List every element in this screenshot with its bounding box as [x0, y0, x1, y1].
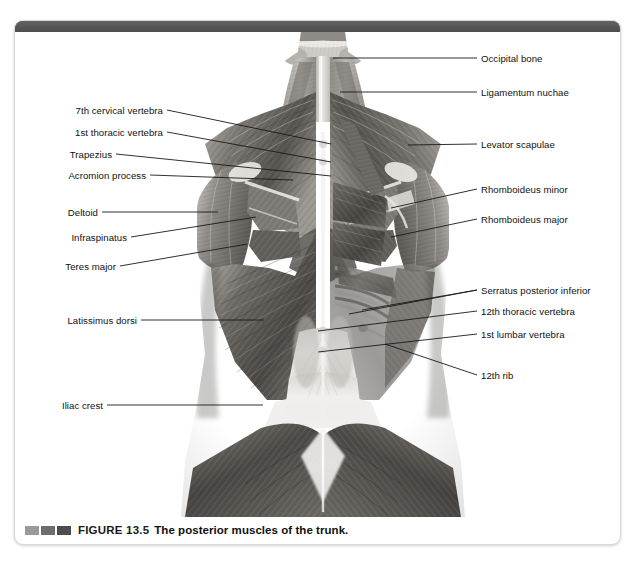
posterior-trunk-muscles-illustration: [149, 32, 479, 517]
callout-label-serratus-posterior-inferior[interactable]: Serratus posterior inferior: [481, 285, 591, 296]
callout-label-occipital-bone[interactable]: Occipital bone: [481, 53, 543, 64]
callout-label-infraspinatus[interactable]: Infraspinatus: [71, 232, 127, 243]
caption-decoration-marks: [25, 526, 71, 535]
callout-label-levator-scapulae[interactable]: Levator scapulae: [481, 139, 555, 150]
callout-label-7th-cervical-vertebra[interactable]: 7th cervical vertebra: [76, 105, 163, 116]
callout-label-acromion-process[interactable]: Acromion process: [68, 170, 146, 181]
figure-page: 7th cervical vertebra1st thoracic verteb…: [0, 0, 637, 563]
caption-mark-3: [57, 526, 71, 535]
callout-label-rhomboideus-major[interactable]: Rhomboideus major: [481, 214, 568, 225]
caption-mark-2: [41, 526, 55, 535]
callout-label-1st-lumbar-vertebra[interactable]: 1st lumbar vertebra: [481, 329, 565, 340]
figure-card: 7th cervical vertebra1st thoracic verteb…: [14, 20, 621, 545]
illustration-area: 7th cervical vertebra1st thoracic verteb…: [15, 32, 621, 517]
callout-label-rhomboideus-minor[interactable]: Rhomboideus minor: [481, 184, 568, 195]
callout-label-teres-major[interactable]: Teres major: [65, 261, 116, 272]
figure-number-label: FIGURE 13.5: [78, 524, 149, 536]
callout-label-latissimus-dorsi[interactable]: Latissimus dorsi: [67, 315, 137, 326]
figure-caption: FIGURE 13.5 The posterior muscles of the…: [15, 516, 621, 544]
card-top-accent-bar: [15, 21, 621, 32]
callout-label-12th-thoracic-vertebra[interactable]: 12th thoracic vertebra: [481, 306, 575, 317]
callout-label-deltoid[interactable]: Deltoid: [68, 207, 98, 218]
callout-label-ligamentum-nuchae[interactable]: Ligamentum nuchae: [481, 87, 569, 98]
callout-label-12th-rib[interactable]: 12th rib: [481, 370, 513, 381]
callout-label-iliac-crest[interactable]: Iliac crest: [62, 400, 103, 411]
callout-label-1st-thoracic-vertebra[interactable]: 1st thoracic vertebra: [75, 127, 163, 138]
callout-label-trapezius[interactable]: Trapezius: [70, 149, 112, 160]
figure-title-text: The posterior muscles of the trunk.: [154, 524, 348, 536]
caption-mark-1: [25, 526, 39, 535]
